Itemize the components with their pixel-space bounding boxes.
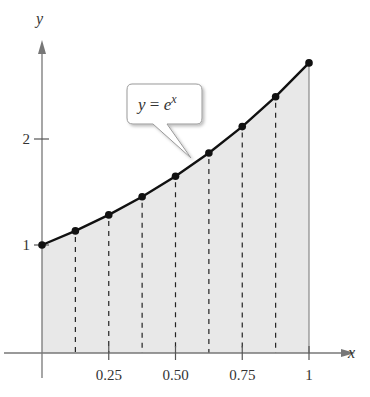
data-point bbox=[105, 211, 113, 219]
function-label: y = ex bbox=[136, 92, 177, 114]
data-point bbox=[138, 193, 146, 201]
data-point bbox=[205, 149, 213, 157]
data-point bbox=[305, 59, 313, 67]
y-axis-label: y bbox=[34, 10, 44, 28]
data-point bbox=[172, 172, 180, 180]
exponential-chart: 0.250.500.75112 y = ex y x bbox=[0, 0, 370, 397]
x-tick-label: 0.25 bbox=[96, 367, 122, 383]
data-point bbox=[238, 123, 246, 131]
y-axis-arrow-icon bbox=[38, 40, 46, 54]
x-tick-label: 0.75 bbox=[229, 367, 255, 383]
data-point bbox=[272, 93, 280, 101]
x-tick-label: 0.50 bbox=[162, 367, 188, 383]
y-tick-label: 1 bbox=[23, 237, 31, 253]
x-tick-label: 1 bbox=[305, 367, 313, 383]
y-tick-label: 2 bbox=[23, 131, 31, 147]
data-point bbox=[72, 227, 80, 235]
data-point bbox=[38, 241, 46, 249]
x-axis-label: x bbox=[347, 344, 355, 361]
